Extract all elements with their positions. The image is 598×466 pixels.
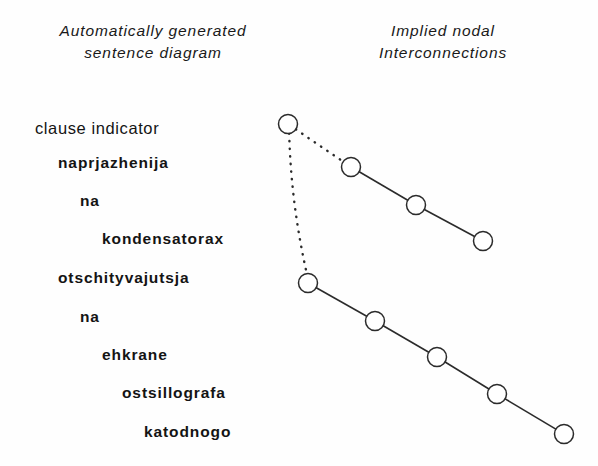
sentence-word-4: otschityvajutsja [58,269,190,287]
node-n4[interactable] [474,232,493,251]
edge-n8-n9 [505,399,556,429]
sentence-word-5: na [80,308,100,326]
right-column-header-line2: Interconnections [318,42,568,64]
edge-n5-n6 [316,288,366,317]
sentence-word-8: katodnogo [144,423,231,441]
edge-n2-n3 [359,172,408,200]
sentence-word-2: na [80,192,100,210]
sentence-word-0: clause indicator [35,119,159,138]
node-n5[interactable] [299,274,318,293]
node-n3[interactable] [407,196,426,215]
sentence-word-6: ehkrane [102,346,168,364]
sentence-word-3: kondensatorax [102,230,224,248]
sentence-word-7: ostsillografa [122,384,226,402]
edge-n7-n8 [445,362,489,389]
node-n6[interactable] [366,312,385,331]
node-n2[interactable] [342,158,361,177]
right-column-header: Implied nodal Interconnections [318,20,568,64]
node-n9[interactable] [555,425,574,444]
right-column-header-line1: Implied nodal [318,20,568,42]
sentence-diagram-figure: Automatically generated sentence diagram… [0,0,598,466]
edge-n6-n7 [383,326,429,352]
sentence-word-list: clause indicatornaprjazhenijanakondensat… [0,0,290,466]
edge-n1-n5 [289,133,307,273]
node-n8[interactable] [488,385,507,404]
edge-n1-n2 [296,129,343,161]
sentence-word-1: naprjazhenija [58,154,169,172]
edge-n3-n4 [424,209,474,236]
node-n7[interactable] [428,348,447,367]
